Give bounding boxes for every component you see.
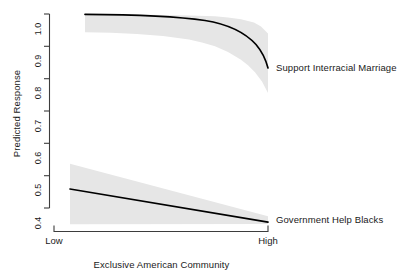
y-tick-label-0-6: 0.6 bbox=[33, 143, 43, 173]
y-tick-label-0-5: 0.5 bbox=[33, 175, 43, 205]
y-tick-label-0-9: 0.9 bbox=[33, 46, 43, 76]
y-tick-label-0-4: 0.4 bbox=[33, 208, 43, 238]
series-label-government-help-blacks: Government Help Blacks bbox=[276, 214, 383, 225]
y-tick-label-1-0: 1.0 bbox=[33, 14, 43, 44]
x-tick-label-low: Low bbox=[44, 235, 64, 246]
y-tick-label-0-8: 0.8 bbox=[33, 78, 43, 108]
ci-band-support-interracial-marriage bbox=[85, 14, 268, 93]
x-tick-label-high: High bbox=[256, 235, 280, 246]
y-tick-label-0-7: 0.7 bbox=[33, 111, 43, 141]
y-axis-title: Predicted Response bbox=[11, 54, 22, 174]
chart-figure: 1.0 0.9 0.8 0.7 0.6 0.5 0.4 Low High Pre… bbox=[0, 0, 413, 280]
y-axis-ticks bbox=[44, 14, 50, 208]
series-label-support-interracial-marriage: Support Interracial Marriage bbox=[276, 62, 397, 73]
x-axis-title: Exclusive American Community bbox=[54, 259, 269, 270]
x-axis-line bbox=[54, 226, 268, 232]
